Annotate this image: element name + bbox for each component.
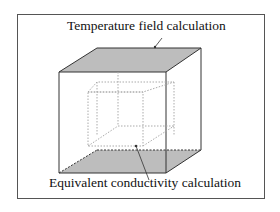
bottom-face bbox=[59, 150, 201, 173]
top-face bbox=[59, 48, 201, 72]
top-leader bbox=[155, 38, 162, 47]
equivalent-conductivity-label: Equivalent conductivity calculation bbox=[49, 175, 241, 191]
temperature-field-label: Temperature field calculation bbox=[67, 18, 226, 34]
inner-cube bbox=[88, 72, 174, 146]
